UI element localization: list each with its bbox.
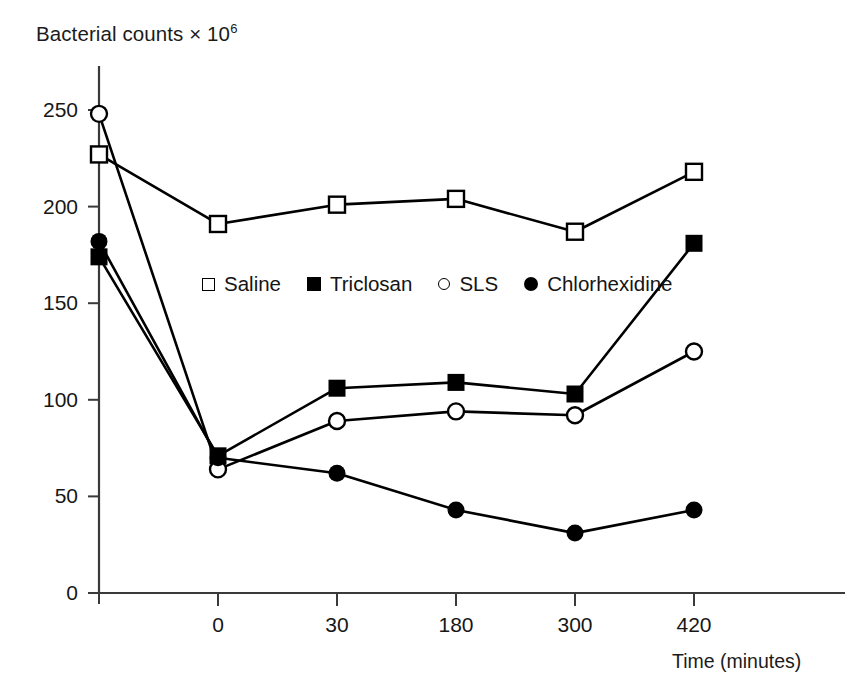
plot-area: [0, 0, 864, 685]
data-point-chlorhexidine-1: [210, 449, 227, 466]
y-axis-ticks: [88, 110, 99, 593]
data-point-chlorhexidine-4: [567, 525, 584, 542]
legend-label-triclosan: Triclosan: [330, 272, 412, 296]
legend-label-sls: SLS: [459, 272, 498, 296]
data-point-triclosan-4: [567, 386, 584, 403]
x-tick-label-30: 30: [325, 613, 348, 637]
y-tick-label-100: 100: [0, 388, 78, 412]
data-point-sls-5: [686, 344, 702, 360]
data-point-triclosan-2: [329, 380, 346, 397]
legend-entry-triclosan: Triclosan: [307, 272, 412, 296]
data-point-sls-4: [567, 407, 583, 423]
x-tick-label-300: 300: [557, 613, 592, 637]
legend-entry-chlorhexidine: Chlorhexidine: [524, 272, 672, 296]
legend-entry-sls: SLS: [438, 272, 498, 296]
data-point-saline-4: [567, 224, 583, 240]
data-point-saline-5: [686, 164, 702, 180]
data-point-sls-0: [91, 106, 107, 122]
series-lines: [99, 114, 694, 533]
data-point-chlorhexidine-0: [91, 233, 108, 250]
series-markers: [91, 106, 703, 542]
x-axis-ticks: [99, 593, 694, 606]
data-point-sls-2: [329, 413, 345, 429]
x-axis-title: Time (minutes): [672, 650, 801, 673]
y-tick-label-150: 150: [0, 291, 78, 315]
legend-label-chlorhexidine: Chlorhexidine: [547, 272, 672, 296]
open-circle-marker-icon: [438, 278, 450, 290]
data-point-triclosan-0: [91, 248, 108, 265]
filled-square-marker-icon: [307, 277, 321, 291]
chart-figure: Bacterial counts × 106 250200150100500 0…: [0, 0, 864, 685]
data-point-saline-2: [329, 197, 345, 213]
data-point-triclosan-3: [448, 374, 465, 391]
data-point-triclosan-5: [686, 235, 703, 252]
legend-label-saline: Saline: [224, 272, 281, 296]
y-tick-label-200: 200: [0, 195, 78, 219]
data-point-chlorhexidine-3: [448, 501, 465, 518]
legend-entry-saline: Saline: [202, 272, 281, 296]
y-tick-label-50: 50: [0, 484, 78, 508]
data-point-saline-1: [210, 216, 226, 232]
data-point-saline-0: [91, 146, 107, 162]
data-point-saline-3: [448, 191, 464, 207]
y-tick-label-250: 250: [0, 98, 78, 122]
y-tick-label-0: 0: [0, 581, 78, 605]
data-point-chlorhexidine-5: [686, 501, 703, 518]
x-tick-label-180: 180: [438, 613, 473, 637]
open-square-marker-icon: [202, 278, 215, 291]
chart-legend: Saline Triclosan SLS Chlorhexidine: [202, 272, 673, 296]
data-point-sls-3: [448, 403, 464, 419]
series-line-saline: [99, 154, 694, 231]
axis-lines: [88, 66, 845, 593]
filled-circle-marker-icon: [524, 277, 538, 291]
x-tick-label-420: 420: [676, 613, 711, 637]
x-tick-label-0: 0: [212, 613, 224, 637]
data-point-chlorhexidine-2: [329, 465, 346, 482]
